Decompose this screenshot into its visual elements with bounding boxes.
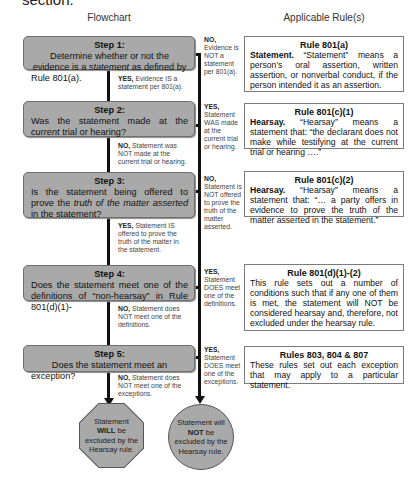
rule-title: Rule 801(c)(2): [250, 175, 398, 185]
step-3-down-label: YES, Statement IS offered to prove the t…: [118, 222, 182, 254]
step-question: Is the statement being offered to prove …: [31, 187, 188, 220]
step-title: Step 2:: [31, 105, 188, 116]
step-title: Step 5:: [31, 349, 188, 360]
rule-801c2-box: Rule 801(c)(2) Hearsay. “Hearsay” means …: [244, 171, 404, 217]
step4-side-branch: [194, 286, 201, 289]
rule-body: This rule sets out a number of condition…: [250, 278, 398, 328]
not-excluded-terminal: Statement will NOT be excluded by the He…: [168, 404, 234, 470]
cut-off-heading: section.: [22, 0, 74, 8]
rule-title: Rules 803, 804 & 807: [250, 350, 398, 360]
step-1-box: Step 1: Determine whether or not the evi…: [23, 36, 195, 70]
step-2-side-label: YES,Statement WAS made at the current tr…: [204, 103, 240, 151]
rule-title: Rule 801(c)(1): [250, 107, 398, 117]
rule-803-804-807-box: Rules 803, 804 & 807 These rules set out…: [244, 346, 404, 384]
step-2-down-label: NO, Statement was NOT made at the curren…: [118, 142, 190, 166]
step-question: Was the statement made at the current tr…: [31, 116, 188, 138]
step3-side-branch: [194, 190, 201, 193]
rule-title: Rule 801(d)(1)-(2): [250, 268, 398, 278]
step1-side-branch: [194, 53, 201, 56]
step-2-box: Step 2: Was the statement made at the cu…: [23, 101, 195, 137]
rule-body: Hearsay. “Hearsay” means a statement tha…: [250, 117, 398, 157]
rule-body: Hearsay. “Hearsay” means a statement tha…: [250, 185, 398, 225]
rules-column-heading: Applicable Rule(s): [244, 12, 404, 23]
step-3-box: Step 3: Is the statement being offered t…: [23, 172, 195, 218]
excluded-terminal: Statement WILL be excluded by the Hearsa…: [80, 404, 143, 467]
side-connector: [198, 53, 201, 398]
step-1-side-label: NO,Evidence is NOT a statement per 801(a…: [204, 36, 240, 76]
step-4-side-label: YES,Statement DOES meet one of the defin…: [204, 268, 242, 308]
step-title: Step 4:: [31, 269, 188, 280]
step5-side-branch: [194, 356, 201, 359]
step-5-box: Step 5: Does the statement meet an excep…: [23, 345, 195, 372]
step-4-down-label: NO, Statement does NOT meet one of the d…: [118, 305, 184, 329]
step-title: Step 3:: [31, 176, 188, 187]
step-5-side-label: YES,Statement DOES meet one of the excep…: [204, 346, 242, 386]
rule-body: Statement. “Statement” means a person’s …: [250, 50, 398, 90]
step-5-down-label: NO, Statement does NOT meet one of the e…: [118, 374, 194, 398]
step-1-down-label: YES, Evidence IS a statement per 801(a).: [118, 75, 190, 91]
rule-body: These rules set out each exception that …: [250, 360, 398, 390]
rule-801a-box: Rule 801(a) Statement. “Statement” means…: [244, 36, 404, 92]
step-3-side-label: NO,Statement is NOT offered to prove the…: [204, 175, 242, 231]
arrow-down-icon: [195, 396, 205, 404]
step-4-box: Step 4: Does the statement meet one of t…: [23, 265, 195, 301]
rule-title: Rule 801(a): [250, 40, 398, 50]
rule-801c1-box: Rule 801(c)(1) Hearsay. “Hearsay” means …: [244, 103, 404, 149]
flowchart-column-heading: Flowchart: [23, 12, 195, 23]
step2-side-branch: [194, 124, 201, 127]
step-title: Step 1:: [31, 40, 188, 51]
rule-801d-box: Rule 801(d)(1)-(2) This rule sets out a …: [244, 264, 404, 331]
